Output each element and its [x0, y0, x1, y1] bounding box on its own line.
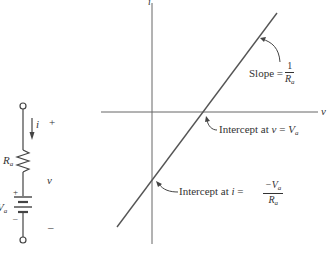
battery-icon — [14, 197, 32, 212]
annotation-arrows — [156, 37, 280, 192]
top-terminal — [20, 103, 26, 109]
slope-fraction: 1 Ra — [285, 61, 295, 86]
slope-den-subscript: a — [291, 78, 295, 86]
slope-denominator: Ra — [285, 73, 295, 86]
resistor-subscript: a — [10, 160, 14, 168]
y-axis-label: i — [148, 0, 151, 7]
v-intercept-sub: a — [295, 129, 299, 137]
x-axis-label: v — [321, 106, 326, 117]
resistor-label: Ra — [3, 155, 13, 168]
voltage-label: v — [47, 175, 52, 186]
source-subscript: a — [4, 207, 8, 215]
current-label: i — [36, 119, 39, 130]
i-intercept-num-subscript: a — [278, 184, 282, 192]
current-arrow-icon — [30, 118, 35, 140]
battery-minus-label: – — [13, 214, 18, 223]
i-intercept-num-symbol: −V — [265, 179, 278, 190]
i-intercept-numerator: −Va — [263, 180, 283, 194]
bottom-terminal — [20, 237, 26, 243]
v-intercept-val: V — [288, 123, 295, 135]
i-intercept-eq: = — [235, 185, 244, 197]
i-intercept-den-subscript: a — [274, 199, 278, 207]
minus-bottom-label: – — [48, 222, 54, 233]
v-intercept-eq: = — [276, 123, 288, 135]
i-intercept-text: Intercept at — [179, 185, 232, 197]
plus-top-label: + — [49, 117, 55, 128]
i-intercept-annotation: Intercept at i = — [179, 186, 244, 197]
v-intercept-arrow-icon — [207, 120, 217, 130]
i-intercept-fraction: −Va Ra — [263, 180, 283, 207]
source-label: Va — [0, 202, 7, 215]
battery-plus-label: + — [13, 188, 18, 197]
v-intercept-text: Intercept at — [219, 123, 272, 135]
i-intercept-denominator: Ra — [268, 194, 278, 207]
v-intercept-annotation: Intercept at v = Va — [219, 124, 298, 137]
resistor-symbol: R — [3, 154, 10, 166]
resistor-icon — [17, 150, 29, 172]
slope-text: Slope = — [249, 68, 283, 79]
i-intercept-arrow-icon — [159, 184, 178, 192]
slope-numerator: 1 — [285, 61, 294, 73]
slope-arrow-icon — [262, 39, 280, 62]
